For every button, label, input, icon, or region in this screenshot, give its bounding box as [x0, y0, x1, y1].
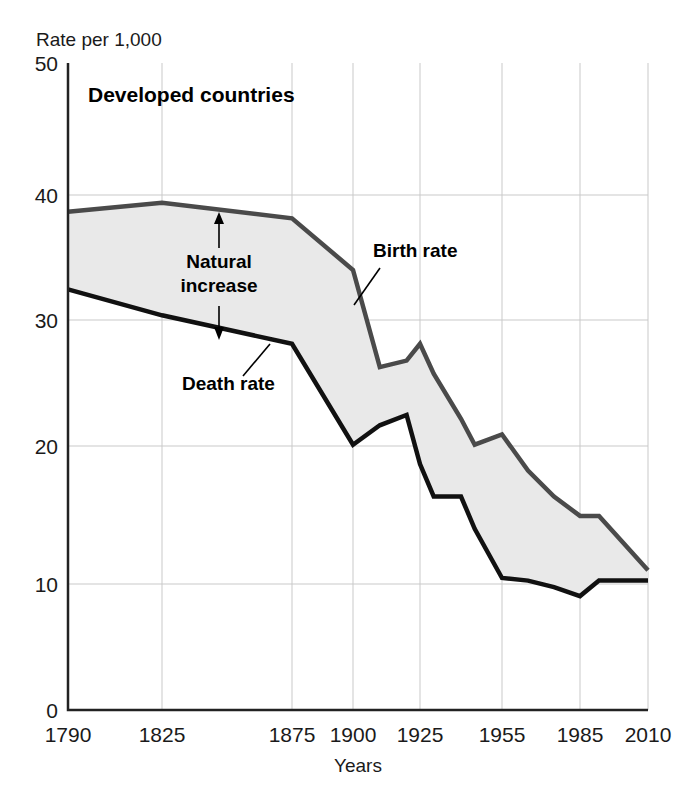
y-tick-30: 30: [35, 309, 58, 332]
chart-svg: Rate per 1,000 50 40 30: [0, 0, 699, 800]
birth-rate-label: Birth rate: [373, 240, 457, 261]
panel-title: Developed countries: [88, 83, 295, 106]
y-tick-labels: 50 40 30 20 10 0: [35, 52, 58, 722]
natural-increase-band: [68, 203, 648, 596]
x-tick-1985: 1985: [557, 723, 604, 746]
x-tick-1900: 1900: [330, 723, 377, 746]
natural-increase-line1: Natural: [186, 251, 251, 272]
x-tick-1875: 1875: [269, 723, 316, 746]
y-tick-10: 10: [35, 573, 58, 596]
y-tick-0: 0: [46, 699, 58, 722]
death-rate-annotation: Death rate: [182, 344, 275, 394]
natural-increase-line2: increase: [180, 275, 257, 296]
x-axis-caption: Years: [334, 755, 382, 776]
x-tick-1790: 1790: [45, 723, 92, 746]
death-rate-leader-line: [243, 344, 270, 376]
y-tick-40: 40: [35, 184, 58, 207]
x-tick-1925: 1925: [397, 723, 444, 746]
x-tick-1955: 1955: [479, 723, 526, 746]
x-tick-2010: 2010: [625, 723, 672, 746]
death-rate-label: Death rate: [182, 373, 275, 394]
arrow-down-head-icon: [214, 327, 224, 340]
chart-figure: Rate per 1,000 50 40 30: [0, 0, 699, 800]
y-tick-20: 20: [35, 435, 58, 458]
y-tick-50: 50: [35, 52, 58, 75]
y-axis-caption: Rate per 1,000: [36, 29, 162, 50]
x-tick-1825: 1825: [139, 723, 186, 746]
birth-rate-annotation: Birth rate: [354, 240, 457, 305]
x-tick-labels: 1790 1825 1875 1900 1925 1955 1985 2010: [45, 723, 672, 746]
